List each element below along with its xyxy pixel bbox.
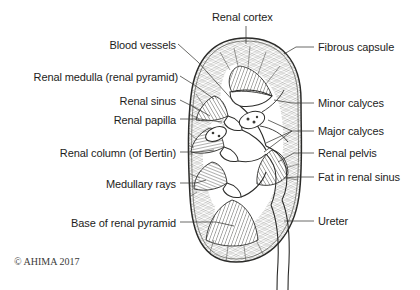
label-renal-cortex: Renal cortex bbox=[212, 11, 273, 23]
label-renal-sinus: Renal sinus bbox=[0, 95, 176, 107]
label-minor-calyces: Minor calyces bbox=[318, 97, 384, 109]
label-major-calyces: Major calyces bbox=[318, 125, 384, 137]
label-renal-column: Renal column (of Bertin) bbox=[0, 147, 176, 159]
label-fat-in-renal-sinus: Fat in renal sinus bbox=[318, 171, 400, 183]
kidney-diagram-figure: Renal cortex Blood vessels Renal medulla… bbox=[0, 0, 420, 290]
leader-fibrous-capsule bbox=[284, 47, 314, 54]
label-renal-pelvis: Renal pelvis bbox=[318, 147, 377, 159]
label-base-of-renal-pyramid: Base of renal pyramid bbox=[0, 217, 176, 229]
label-medullary-rays: Medullary rays bbox=[0, 178, 176, 190]
label-renal-papilla: Renal papilla bbox=[0, 114, 176, 126]
label-blood-vessels: Blood vessels bbox=[0, 39, 176, 51]
label-ureter: Ureter bbox=[318, 215, 348, 227]
label-renal-medulla: Renal medulla (renal pyramid) bbox=[0, 71, 178, 83]
copyright-notice: © AHIMA 2017 bbox=[14, 256, 79, 267]
label-fibrous-capsule: Fibrous capsule bbox=[318, 41, 394, 53]
